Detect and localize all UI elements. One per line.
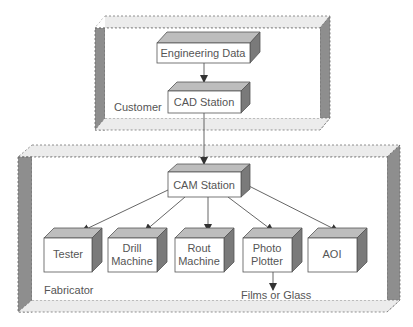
svg-text:Machine: Machine (111, 255, 153, 267)
svg-text:Tester: Tester (53, 248, 83, 260)
node-cam-station: CAM Station (168, 164, 250, 197)
svg-text:Drill: Drill (123, 242, 142, 254)
node-engineering-data: Engineering Data (157, 32, 260, 63)
node-drill-machine: Drill Machine (108, 228, 167, 272)
customer-label: Customer (114, 101, 162, 113)
svg-text:AOI: AOI (323, 248, 342, 260)
node-cad-station: CAD Station (168, 82, 250, 113)
node-rout-machine: Rout Machine (175, 228, 234, 272)
svg-text:CAD Station: CAD Station (174, 96, 235, 108)
fabricator-label: Fabricator (44, 284, 94, 296)
svg-text:CAM Station: CAM Station (173, 179, 235, 191)
pcb-flow-diagram: Customer Fabricator Engineering Data CAD… (0, 0, 413, 327)
svg-text:Photo: Photo (253, 242, 282, 254)
output-label-films-or-glass: Films or Glass (241, 289, 312, 301)
node-tester: Tester (44, 228, 102, 272)
svg-text:Plotter: Plotter (251, 255, 283, 267)
node-aoi: AOI (308, 228, 367, 272)
node-photo-plotter: Photo Plotter (243, 228, 302, 272)
svg-text:Rout: Rout (187, 242, 210, 254)
svg-text:Machine: Machine (178, 255, 220, 267)
svg-text:Engineering Data: Engineering Data (160, 47, 246, 59)
